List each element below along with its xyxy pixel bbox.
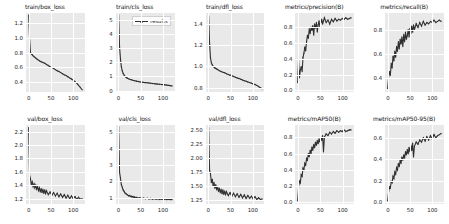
gridline-vertical [118, 125, 119, 204]
series-marker [159, 199, 160, 200]
series-marker [437, 21, 438, 22]
y-axis-tick-label: 5 [109, 17, 112, 23]
series-marker [236, 77, 237, 78]
gridline-vertical [432, 13, 433, 92]
gridline-vertical [253, 13, 254, 92]
y-axis-tick-label: 0.4 [284, 167, 293, 173]
gridline-horizontal [295, 43, 354, 44]
series-marker [132, 80, 133, 81]
x-axis-tick-label: 50 [407, 95, 414, 101]
y-axis-tick-label: 2.25 [191, 141, 203, 147]
series-marker [318, 143, 319, 144]
panel-grid: train/box_loss 0.40.60.81.01.2050100 tra… [0, 0, 449, 224]
plot-area: 0.00.20.40.60.8050100 [295, 125, 354, 204]
series-marker [305, 46, 306, 47]
panel-val-dfl-loss: val/dfl_loss 1.251.501.752.002.252.50050… [180, 112, 270, 224]
series-marker [303, 57, 304, 58]
series-marker [425, 140, 426, 141]
gridline-horizontal [206, 88, 265, 89]
y-axis-tick-label: 0.2 [284, 72, 293, 78]
series-marker [418, 144, 419, 145]
series-marker [44, 63, 45, 64]
y-axis-tick-label: 1.2 [14, 196, 23, 202]
series-marker [168, 85, 169, 86]
series-marker [240, 194, 241, 195]
series-marker [425, 24, 426, 25]
series-marker [315, 141, 316, 142]
gridline-horizontal [295, 137, 354, 138]
gridline-vertical [388, 13, 389, 92]
series-marker [129, 78, 130, 79]
series-marker [301, 174, 302, 175]
x-axis-tick-label: 0 [207, 207, 210, 213]
gridline-horizontal [26, 82, 85, 83]
series-plot [385, 13, 444, 92]
gridline-horizontal [295, 90, 354, 91]
panel-metrics-map50-95: metrics/mAP50-95(B) 0.00.20.40.6050100 [359, 112, 449, 224]
panel-train-box-loss: train/box_loss 0.40.60.81.01.2050100 [0, 0, 90, 112]
series-marker [324, 17, 325, 18]
series-marker [136, 80, 137, 81]
gridline-vertical [343, 125, 344, 204]
y-axis-tick-label: 0.2 [374, 178, 383, 184]
gridline-vertical [231, 13, 232, 92]
series-marker [330, 23, 331, 24]
series-marker [326, 22, 327, 23]
series-marker [80, 87, 81, 88]
series-marker [330, 132, 331, 133]
y-axis-tick-label: 0.6 [284, 151, 293, 157]
x-axis-tick-label: 50 [407, 207, 414, 213]
x-axis-tick-label: 100 [158, 95, 168, 101]
series-marker [397, 169, 398, 170]
series-marker [405, 31, 406, 32]
series-marker [322, 135, 323, 136]
x-axis-tick-label: 50 [137, 95, 144, 101]
y-axis-tick-label: 0.6 [374, 135, 383, 141]
panel-title: val/box_loss [0, 115, 90, 122]
gridline-vertical [432, 125, 433, 204]
series-marker [122, 70, 123, 71]
series-marker [42, 62, 43, 63]
series-marker [401, 163, 402, 164]
series-marker [339, 19, 340, 20]
gridline-vertical [73, 13, 74, 92]
gridline-horizontal [26, 67, 85, 68]
y-axis-tick-label: 2 [109, 59, 112, 65]
series-marker [44, 189, 45, 190]
series-marker [60, 193, 61, 194]
panel-metrics-precision: metrics/precision(B) 0.00.20.40.60.80501… [269, 0, 359, 112]
series-marker [428, 139, 429, 140]
series-marker [170, 85, 171, 86]
series-marker [233, 76, 234, 77]
x-axis-tick-label: 100 [68, 95, 78, 101]
y-axis-tick-label: 0.6 [374, 51, 383, 57]
panel-train-dfl-loss: train/dfl_loss 0.81.01.21.4050100 [180, 0, 270, 112]
series-marker [254, 196, 255, 197]
gridline-horizontal [116, 165, 175, 166]
gridline-horizontal [385, 78, 444, 79]
series-marker [58, 71, 59, 72]
gridline-horizontal [26, 38, 85, 39]
series-marker [221, 193, 222, 194]
panel-title: val/cls_loss [90, 115, 180, 122]
series-marker [152, 83, 153, 84]
series-marker [138, 81, 139, 82]
series-marker [39, 187, 40, 188]
series-marker [407, 149, 408, 150]
series-marker [210, 57, 211, 58]
series-marker [337, 130, 338, 131]
series-marker [434, 19, 435, 20]
x-axis-tick-label: 100 [158, 207, 168, 213]
series-marker [307, 159, 308, 160]
y-axis-tick-label: 1.0 [194, 63, 203, 69]
series-marker [55, 69, 56, 70]
series-plot [295, 13, 354, 92]
gridline-horizontal [206, 130, 265, 131]
x-axis-tick-label: 0 [117, 95, 120, 101]
series-marker [245, 198, 246, 199]
y-axis-tick-label: 0.8 [284, 24, 293, 30]
series-marker [124, 192, 125, 193]
gridline-horizontal [206, 144, 265, 145]
series-marker [250, 195, 251, 196]
series-marker [121, 66, 122, 67]
